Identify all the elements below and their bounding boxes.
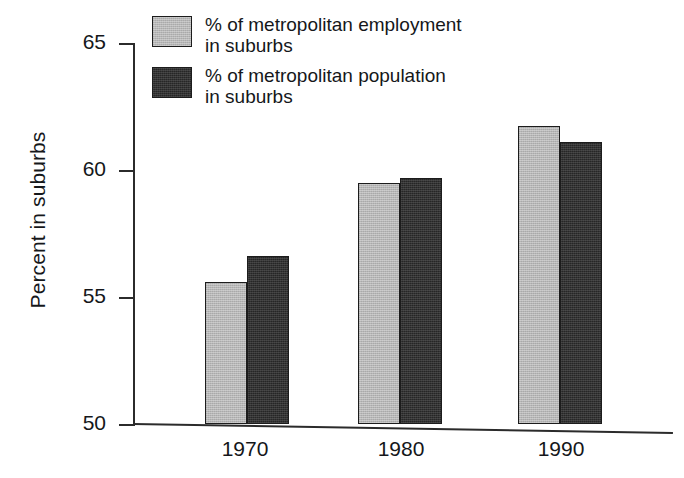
bar-population-1990 [560,142,602,424]
legend-label-population-line2: in suburbs [205,86,293,107]
x-tick-label-1990: 1990 [516,437,606,461]
y-axis-title: Percent in suburbs [26,90,50,350]
x-tick-label-1970: 1970 [200,437,290,461]
bar-employment-1990 [518,126,560,424]
legend-label-employment-line2: in suburbs [205,35,293,56]
legend-label-employment: % of metropolitan employmentin suburbs [205,14,462,56]
bar-employment-1980 [358,183,400,424]
bar-population-1970 [247,256,289,424]
legend-item-employment: % of metropolitan employmentin suburbs [152,14,462,56]
y-tick-label-65: 65 [60,30,106,54]
legend-label-population: % of metropolitan populationin suburbs [205,65,446,107]
bar-chart-figure: Percent in suburbs 65 60 55 50 1970 1980… [0,0,684,478]
legend-label-population-line1: % of metropolitan population [205,65,446,86]
y-tick-label-60: 60 [60,157,106,181]
legend-swatch-employment-icon [152,16,192,47]
bar-group-1990 [518,43,670,424]
legend: % of metropolitan employmentin suburbs %… [152,14,462,116]
legend-item-population: % of metropolitan populationin suburbs [152,65,462,107]
legend-swatch-population-icon [152,67,192,98]
y-tick-label-55: 55 [60,284,106,308]
bar-population-1980 [400,178,442,424]
y-tick-label-50: 50 [60,411,106,435]
bar-employment-1970 [205,282,247,424]
x-tick-label-1980: 1980 [356,437,446,461]
x-axis-line [133,423,673,434]
legend-label-employment-line1: % of metropolitan employment [205,14,462,35]
